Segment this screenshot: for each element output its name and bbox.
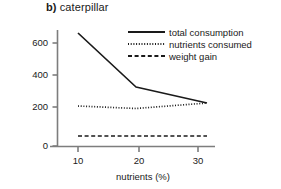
series-nutrients-consumed xyxy=(78,103,207,109)
plot-area xyxy=(0,0,281,189)
chart-figure: b) caterpillar weight (mg) nutrients (%)… xyxy=(0,0,281,189)
